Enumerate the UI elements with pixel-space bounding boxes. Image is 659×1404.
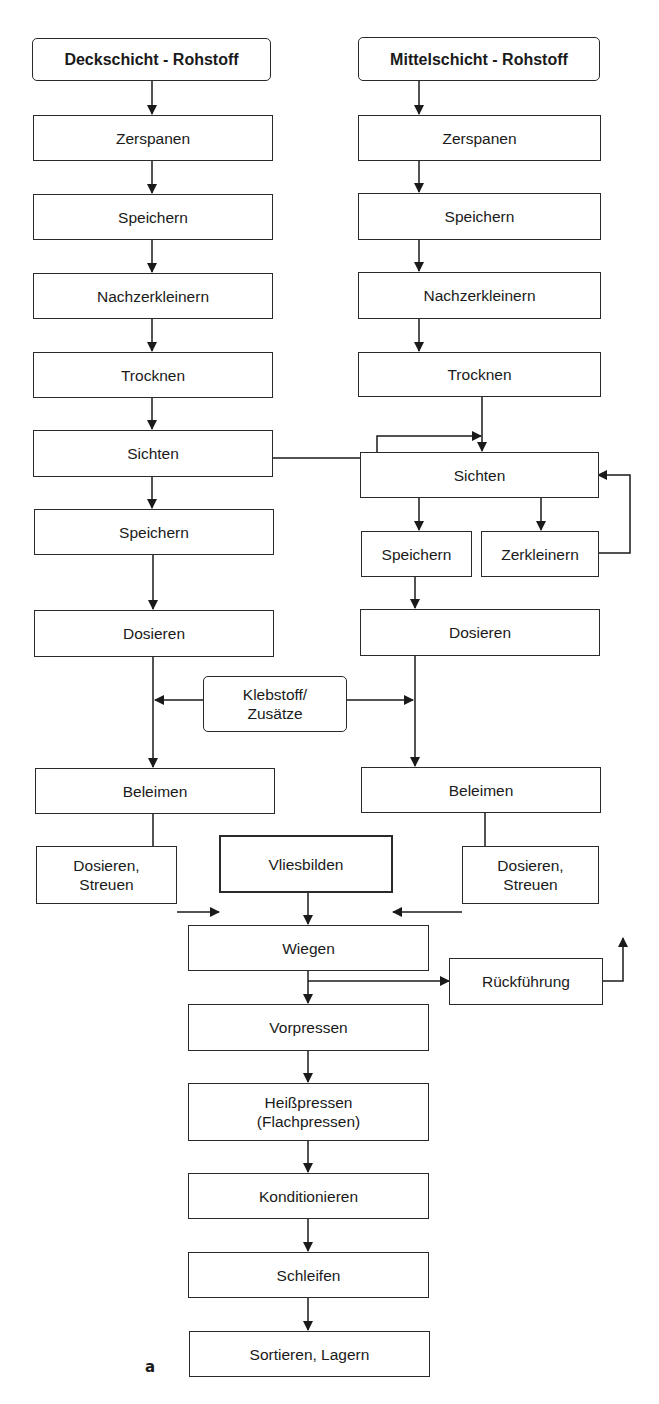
right-step-zerspanen: Zerspanen [358,115,601,161]
left-step-trocknen: Trocknen [33,352,273,398]
left-step-sichten: Sichten [33,430,273,477]
left-step-zerspanen: Zerspanen [33,115,273,161]
right-step-trocknen: Trocknen [358,352,601,397]
step-vorpressen: Vorpressen [188,1004,429,1051]
right-step-speichern: Speichern [358,193,601,240]
right-step-speichern-2: Speichern [361,531,472,577]
figure-label: a [145,1358,155,1376]
left-step-nachzerkleinern: Nachzerkleinern [33,273,273,319]
right-step-nachzerkleinern: Nachzerkleinern [358,272,601,319]
right-step-beleimen: Beleimen [361,767,601,813]
left-step-dosieren: Dosieren [34,610,274,657]
right-step-zerkleinern: Zerkleinern [481,531,599,577]
step-heisspressen: Heißpressen (Flachpressen) [188,1083,429,1141]
step-sortieren-lagern: Sortieren, Lagern [189,1331,430,1377]
right-step-sichten: Sichten [360,452,599,498]
right-step-dosieren-streuen: Dosieren, Streuen [462,846,599,904]
step-konditionieren: Konditionieren [188,1173,429,1219]
left-step-beleimen: Beleimen [35,768,275,814]
left-step-speichern-2: Speichern [34,509,274,555]
step-vliesbilden: Vliesbilden [219,835,393,893]
step-wiegen: Wiegen [188,925,429,971]
left-step-speichern: Speichern [33,194,273,240]
deckschicht-source: Deckschicht - Rohstoff [32,38,271,81]
right-step-dosieren: Dosieren [360,609,600,656]
additives-klebstoff: Klebstoff/ Zusätze [203,676,347,732]
step-schleifen: Schleifen [188,1252,429,1298]
left-step-dosieren-streuen: Dosieren, Streuen [36,846,177,904]
mittelschicht-source: Mittelschicht - Rohstoff [358,37,600,81]
step-rueckfuehrung: Rückführung [449,958,603,1005]
